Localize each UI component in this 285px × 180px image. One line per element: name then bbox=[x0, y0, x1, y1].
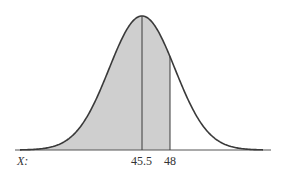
normal-curve-chart bbox=[0, 0, 285, 180]
x-variable-label: X: bbox=[17, 155, 28, 167]
mean-tick-label: 45.5 bbox=[131, 155, 152, 167]
value-tick-label: 48 bbox=[164, 155, 176, 167]
shaded-area bbox=[20, 16, 170, 150]
